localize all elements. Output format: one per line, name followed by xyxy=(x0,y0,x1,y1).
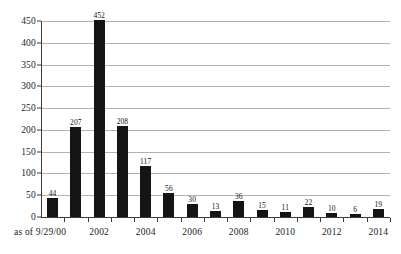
x-axis-tick-label: 2014 xyxy=(368,227,388,237)
y-axis-tick-label: 0 xyxy=(31,212,36,222)
bar xyxy=(117,126,128,217)
bar-value-label: 117 xyxy=(140,157,151,166)
y-axis-tick-label: 100 xyxy=(21,168,36,178)
y-axis-tick-label: 250 xyxy=(21,103,36,113)
bar-value-label: 10 xyxy=(328,204,336,213)
plot-area xyxy=(41,21,390,217)
bar-value-label: 56 xyxy=(165,184,173,193)
bar xyxy=(140,166,151,217)
bar-value-label: 6 xyxy=(353,205,357,214)
y-axis-tick-label: 350 xyxy=(21,60,36,70)
x-axis-tick-label: 2002 xyxy=(89,227,109,237)
x-axis-tick-mark xyxy=(204,218,205,222)
y-axis-tick-labels: 050100150200250300350400450 xyxy=(0,21,36,217)
x-axis-tick-label: 2012 xyxy=(322,227,342,237)
x-axis-tick-mark xyxy=(111,218,112,222)
x-axis-tick-mark xyxy=(227,218,228,222)
x-axis-tick-mark xyxy=(134,218,135,222)
y-axis-tick-label: 300 xyxy=(21,81,36,91)
y-axis-tick-label: 50 xyxy=(26,190,36,200)
x-axis-tick-mark xyxy=(343,218,344,222)
bar-value-label: 452 xyxy=(93,11,105,20)
bar-value-label: 19 xyxy=(375,200,383,209)
x-axis-tick-mark xyxy=(250,218,251,222)
bar xyxy=(94,20,105,217)
x-axis-tick-mark xyxy=(367,218,368,222)
x-axis-tick-mark xyxy=(274,218,275,222)
bar xyxy=(303,207,314,217)
x-axis-tick-label: 2010 xyxy=(275,227,295,237)
bar-value-label: 30 xyxy=(188,195,196,204)
bar-value-label: 44 xyxy=(49,189,57,198)
bar-value-label: 15 xyxy=(258,201,266,210)
bar-chart: 050100150200250300350400450 442074522081… xyxy=(0,0,401,254)
bar xyxy=(187,204,198,217)
y-axis-tick-label: 450 xyxy=(21,16,36,26)
x-axis-tick-mark xyxy=(157,218,158,222)
bar xyxy=(233,201,244,217)
bar-value-label: 208 xyxy=(117,117,129,126)
bar-value-label: 13 xyxy=(212,202,220,211)
x-axis-tick-label: 2008 xyxy=(229,227,249,237)
bar-value-label: 207 xyxy=(70,118,82,127)
x-axis-tick-label: 2006 xyxy=(182,227,202,237)
bar xyxy=(47,198,58,217)
x-axis-tick-mark xyxy=(64,218,65,222)
bar-value-label: 22 xyxy=(305,198,313,207)
bar-value-label: 11 xyxy=(282,203,289,212)
x-axis-tick-mark xyxy=(181,218,182,222)
x-axis-tick-mark xyxy=(88,218,89,222)
y-axis-line xyxy=(41,21,42,218)
y-axis-tick-label: 400 xyxy=(21,38,36,48)
x-axis-tick-label: as of 9/29/00 xyxy=(14,227,66,237)
x-axis-tick-mark xyxy=(390,218,391,222)
x-axis-tick-label: 2004 xyxy=(136,227,156,237)
bar-value-label: 36 xyxy=(235,192,243,201)
bar xyxy=(163,193,174,217)
x-axis-line xyxy=(41,217,390,218)
x-axis-tick-mark xyxy=(320,218,321,222)
y-axis-tick-label: 200 xyxy=(21,125,36,135)
bar xyxy=(373,209,384,217)
y-axis-tick-label: 150 xyxy=(21,147,36,157)
x-axis-tick-mark xyxy=(297,218,298,222)
bar xyxy=(70,127,81,217)
